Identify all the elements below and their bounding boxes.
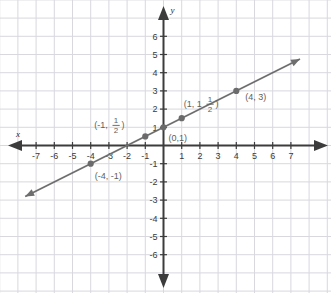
x-tick-label: 5: [252, 151, 257, 161]
graph-canvas: -7-6-5-4-3-2-11234567-6-5-4-3-2-1123456 …: [0, 0, 331, 293]
y-tick-label: -5: [149, 232, 157, 242]
coordinate-plane-graph: -7-6-5-4-3-2-11234567-6-5-4-3-2-1123456 …: [0, 0, 331, 293]
line-arrow-lower-left: [25, 189, 35, 196]
data-point: [179, 115, 185, 121]
point-label-neg1-half-numerator: 1: [114, 116, 119, 125]
y-tick-label: 3: [152, 86, 157, 96]
x-tick-label: 7: [288, 151, 293, 161]
x-tick-label: 2: [197, 151, 202, 161]
point-label-1-onehalf-prefix: (1, 1: [184, 99, 202, 109]
data-point: [160, 124, 166, 130]
x-axis-name: x: [15, 129, 20, 139]
x-tick-label: -2: [123, 151, 131, 161]
point-label-1-onehalf-suffix: ): [216, 99, 219, 109]
data-point: [142, 133, 148, 139]
y-tick-label: 6: [152, 32, 157, 42]
point-label-4-3: (4, 3): [245, 92, 266, 102]
x-tick-label: 4: [234, 151, 239, 161]
y-tick-label: 4: [152, 68, 157, 78]
point-label-neg4-neg1: (-4, -1): [95, 171, 122, 181]
point-label-1-onehalf-denominator: 2: [208, 105, 213, 114]
x-tick-label: -1: [141, 151, 149, 161]
y-axis-arrow-up: [158, 6, 169, 20]
y-tick-label: -4: [149, 214, 157, 224]
x-tick-label: -5: [68, 151, 76, 161]
x-tick-label: 6: [270, 151, 275, 161]
x-tick-label: 1: [179, 151, 184, 161]
y-tick-label: -6: [149, 250, 157, 260]
y-tick-label: -1: [149, 159, 157, 169]
point-label-1-onehalf: (1, 112): [184, 95, 219, 114]
y-axis-name: y: [170, 5, 175, 15]
point-label-1-onehalf-numerator: 1: [208, 95, 213, 104]
y-tick-label: -2: [149, 177, 157, 187]
point-label-0-1: (0,1): [169, 133, 188, 143]
y-tick-label: -3: [149, 195, 157, 205]
y-tick-label: 5: [152, 50, 157, 60]
x-tick-label: -7: [32, 151, 40, 161]
x-tick-label: 3: [216, 151, 221, 161]
axes: [8, 6, 328, 288]
y-axis-arrow-down: [158, 274, 169, 288]
point-labels: (-4, -1)(0,1)(4, 3)(-1,12)(1, 112): [94, 92, 266, 181]
y-tick-label: 2: [152, 104, 157, 114]
x-axis-arrow-left: [8, 140, 22, 151]
line-arrow-upper-right: [290, 59, 300, 66]
point-label-neg1-half-suffix: ): [122, 120, 125, 130]
axis-names: xy: [15, 5, 175, 139]
data-point: [233, 88, 239, 94]
data-point: [88, 161, 94, 167]
x-tick-label: -4: [87, 151, 95, 161]
x-tick-label: -6: [50, 151, 58, 161]
point-label-neg1-half-denominator: 2: [114, 126, 119, 135]
x-axis-arrow-right: [314, 140, 328, 151]
point-label-neg1-half-prefix: (-1,: [94, 120, 108, 130]
